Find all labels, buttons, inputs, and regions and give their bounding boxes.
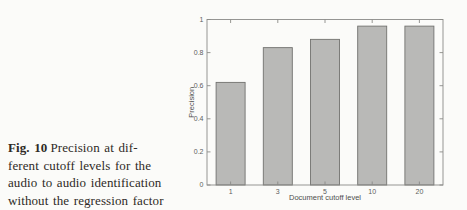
y-tick-label: 0.8 [194,49,204,56]
precision-bar-chart: 00.20.40.60.811351020Document cutoff lev… [0,0,467,210]
x-tick-label: 20 [416,188,424,195]
x-tick-label: 3 [276,188,280,195]
bar-20 [405,26,434,185]
figure-panel: Fig. 10Precision at dif- ferent cutoff l… [0,0,467,210]
y-tick-label: 0 [200,181,204,188]
bar-3 [263,48,292,185]
bar-1 [216,82,245,185]
x-tick-label: 10 [368,188,376,195]
bar-5 [311,39,340,185]
y-tick-label: 1 [200,16,204,23]
x-tick-label: 1 [229,188,233,195]
y-tick-label: 0.2 [194,148,204,155]
x-axis-label: Document cutoff level [289,193,361,202]
y-axis-label: Precision [187,87,196,118]
bar-10 [358,26,387,185]
